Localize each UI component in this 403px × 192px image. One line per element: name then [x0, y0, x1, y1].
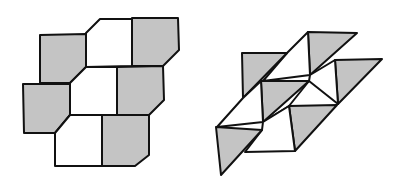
pentagon-tile-gray-1 — [132, 18, 179, 66]
tiling-figure — [0, 0, 403, 192]
pentagon-tile-gray-7 — [102, 115, 149, 166]
triangle-tile-gray-8 — [289, 105, 337, 151]
right-triangle-tiling — [216, 32, 382, 175]
tiling-svg — [0, 0, 403, 192]
pentagon-tile-gray-4 — [117, 66, 164, 115]
pentagon-tile-white-0 — [86, 19, 132, 67]
left-pentagon-tiling — [23, 18, 179, 166]
triangle-tile-gray-3 — [335, 59, 382, 104]
triangle-tile-white-7 — [217, 81, 263, 127]
